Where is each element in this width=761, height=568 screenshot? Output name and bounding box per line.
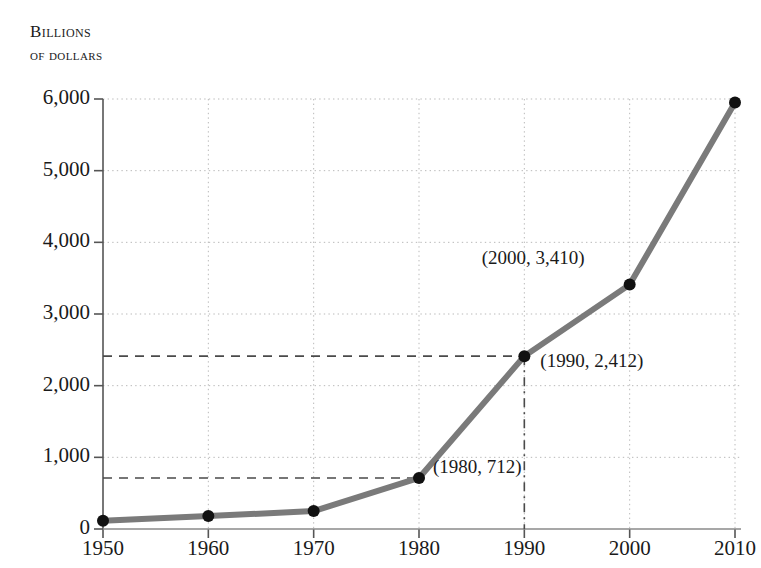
y-tick-label: 1,000 <box>10 443 90 468</box>
axis-lines <box>103 99 741 529</box>
y-tick-label: 6,000 <box>10 85 90 110</box>
x-tick-label: 1980 <box>374 536 464 561</box>
reference-lines <box>103 356 524 529</box>
tick-marks <box>94 99 735 538</box>
x-tick-label: 2010 <box>690 536 761 561</box>
chart-svg <box>0 0 761 568</box>
point-annotation: (1980, 712) <box>433 456 522 478</box>
x-tick-label: 1950 <box>58 536 148 561</box>
point-annotation: (1990, 2,412) <box>540 350 643 372</box>
x-tick-label: 2000 <box>585 536 675 561</box>
y-tick-label: 4,000 <box>10 228 90 253</box>
x-tick-label: 1990 <box>479 536 569 561</box>
y-tick-label: 3,000 <box>10 300 90 325</box>
plot-area <box>0 0 761 568</box>
x-tick-label: 1960 <box>163 536 253 561</box>
y-tick-label: 5,000 <box>10 157 90 182</box>
x-tick-label: 1970 <box>269 536 359 561</box>
y-tick-label: 2,000 <box>10 372 90 397</box>
gridlines <box>103 99 741 529</box>
point-annotation: (2000, 3,410) <box>482 247 585 269</box>
chart-page: Billions of dollars 01,0002,0003,0004,00… <box>0 0 761 568</box>
